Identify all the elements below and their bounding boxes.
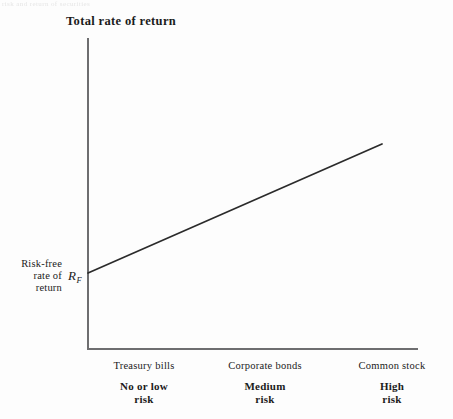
x-axis-line: [87, 348, 418, 350]
risk-free-rate-symbol: RF: [68, 268, 82, 284]
risk-label-line-2: risk: [317, 393, 453, 406]
risk-label-line-1: Medium: [244, 380, 285, 392]
scan-artifact-text: risk and return of securities: [2, 0, 130, 9]
risk-free-line-1: Risk-free: [0, 258, 62, 270]
risk-label-common-stock: High risk: [317, 380, 453, 405]
risk-free-symbol-base: R: [68, 268, 76, 283]
y-axis-title: Total rate of return: [66, 14, 176, 29]
risk-free-symbol-subscript: F: [76, 275, 81, 285]
plot-area: [0, 0, 453, 419]
risk-label-line-1: No or low: [120, 380, 168, 392]
y-axis-line: [87, 38, 89, 350]
risk-label-line-1: High: [380, 380, 404, 392]
category-label-common-stock: Common stock: [317, 359, 453, 372]
risk-free-rate-label: Risk-free rate of return: [0, 258, 62, 294]
risk-free-line-2: rate of: [0, 270, 62, 282]
return-line: [88, 144, 382, 273]
category-column-common-stock: Common stock High risk: [317, 359, 453, 405]
risk-free-line-3: return: [0, 282, 62, 294]
risk-return-figure: risk and return of securities Total rate…: [0, 0, 453, 419]
